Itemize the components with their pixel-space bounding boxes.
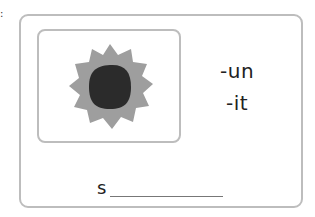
- option-un[interactable]: -un: [220, 59, 254, 83]
- option-it[interactable]: -it: [226, 91, 248, 115]
- answer-prefix: s: [97, 177, 106, 198]
- picture-box: [37, 29, 181, 143]
- word-card: -un -it s: [19, 14, 303, 208]
- sun-icon: [65, 42, 155, 132]
- answer-blank[interactable]: [110, 196, 223, 197]
- corner-mark: :: [0, 9, 3, 19]
